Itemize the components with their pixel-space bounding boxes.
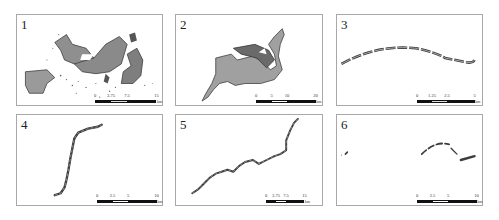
map-panel-1: 1 0 3.75 7.5 15 km xyxy=(16,14,163,106)
scale-bar: 0 1.25 2.5 5 km xyxy=(417,93,477,107)
scale-bar: 0 5 10 20 km xyxy=(256,93,318,107)
map-shape-4 xyxy=(17,115,162,205)
map-shape-1 xyxy=(17,15,162,105)
map-shape-5 xyxy=(176,115,322,205)
map-panel-4: 4 0 2.5 5 10 km xyxy=(16,114,163,206)
scale-bar: 0 3.75 7.5 15 km xyxy=(266,193,306,207)
map-shape-6 xyxy=(337,115,482,205)
map-shape-3 xyxy=(337,15,482,105)
map-panel-5: 5 0 3.75 7.5 15 km xyxy=(175,114,323,206)
map-panel-6: 6 0 2.5 5 10 km xyxy=(336,114,483,206)
map-panel-2: 2 0 5 10 20 km xyxy=(175,14,323,106)
scale-bar: 0 2.5 5 10 km xyxy=(417,193,479,207)
scale-bar: 0 2.5 5 10 km xyxy=(97,193,159,207)
scale-bar: 0 3.75 7.5 15 km xyxy=(95,93,159,107)
map-panel-3: 3 0 1.25 2.5 5 km xyxy=(336,14,483,106)
map-shape-2 xyxy=(176,15,322,105)
